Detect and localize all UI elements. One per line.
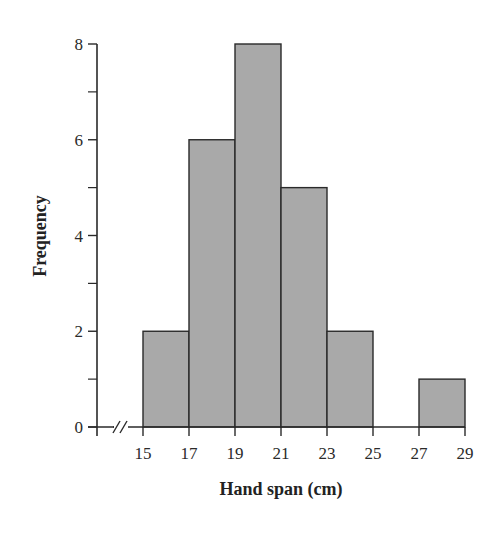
x-tick-label: 23 xyxy=(319,444,336,463)
histogram-bar xyxy=(327,331,373,427)
x-tick-label: 21 xyxy=(273,444,290,463)
histogram-chart: 02468 1517192123252729 Hand span (cm) Fr… xyxy=(0,0,495,536)
x-tick-label: 19 xyxy=(227,444,244,463)
y-axis-title: Frequency xyxy=(30,195,50,277)
histogram-bar xyxy=(235,44,281,427)
y-tick-label: 2 xyxy=(75,322,84,341)
histogram-bar xyxy=(189,140,235,427)
x-tick-label: 27 xyxy=(411,444,429,463)
histogram-bar xyxy=(143,331,189,427)
x-tick-label: 25 xyxy=(365,444,382,463)
histogram-bars xyxy=(143,44,465,427)
y-tick-label: 4 xyxy=(75,227,84,246)
histogram-bar xyxy=(281,188,327,427)
x-axis-title: Hand span (cm) xyxy=(219,479,342,500)
x-tick-label: 17 xyxy=(181,444,199,463)
y-axis: 02468 xyxy=(75,35,98,437)
x-tick-label: 15 xyxy=(135,444,152,463)
histogram-bar xyxy=(419,379,465,427)
y-tick-label: 8 xyxy=(75,35,84,54)
x-axis: 1517192123252729 xyxy=(88,421,474,463)
y-tick-label: 0 xyxy=(75,418,84,437)
x-tick-label: 29 xyxy=(457,444,474,463)
y-tick-label: 6 xyxy=(75,131,84,150)
